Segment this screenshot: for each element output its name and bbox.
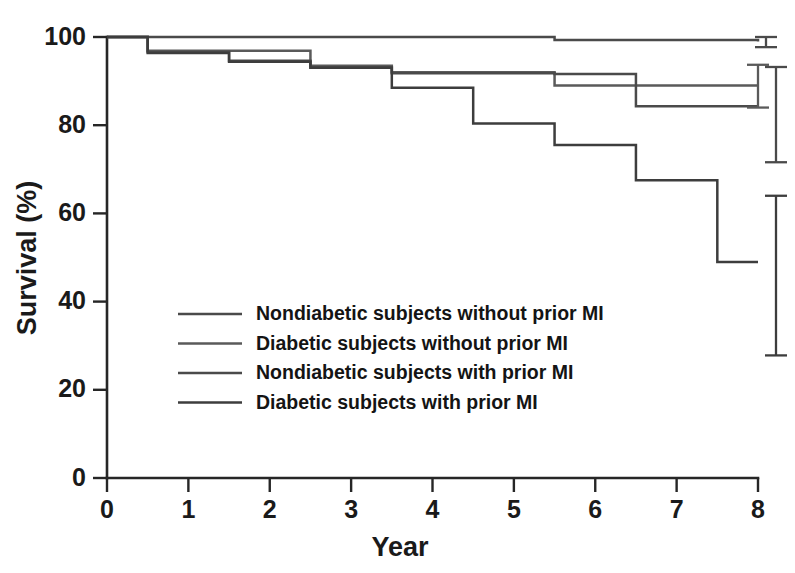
x-tick-label: 4 xyxy=(426,495,440,523)
y-tick-label: 100 xyxy=(44,22,86,50)
x-tick-label: 3 xyxy=(344,495,358,523)
x-tick-label: 6 xyxy=(588,495,602,523)
y-axis-title: Survival (%) xyxy=(12,181,42,336)
legend-item-label-0: Nondiabetic subjects without prior MI xyxy=(256,302,604,324)
y-tick-label: 80 xyxy=(58,110,86,138)
x-tick-label: 7 xyxy=(670,495,684,523)
y-tick-label: 60 xyxy=(58,198,86,226)
chart-canvas: 020406080100 012345678 Year Survival (%)… xyxy=(0,0,795,573)
x-tick-label: 5 xyxy=(507,495,521,523)
survival-chart-figure: 020406080100 012345678 Year Survival (%)… xyxy=(0,0,795,573)
y-tick-label: 20 xyxy=(58,374,86,402)
x-tick-label: 1 xyxy=(181,495,195,523)
y-tick-label: 40 xyxy=(58,286,86,314)
x-tick-label: 2 xyxy=(263,495,277,523)
y-tick-label: 0 xyxy=(72,463,86,491)
legend-item-label-3: Diabetic subjects with prior MI xyxy=(256,391,538,413)
legend-item-label-2: Nondiabetic subjects with prior MI xyxy=(256,361,573,383)
x-axis-title: Year xyxy=(371,532,429,562)
x-tick-label: 8 xyxy=(751,495,765,523)
x-tick-label: 0 xyxy=(100,495,114,523)
legend-item-label-1: Diabetic subjects without prior MI xyxy=(256,332,568,354)
